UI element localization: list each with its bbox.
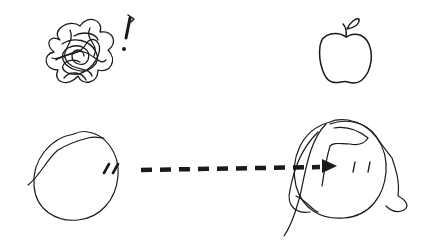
right-person-eyes [353, 162, 370, 172]
tangled-scribble-icon [46, 19, 113, 82]
left-person-head [28, 132, 118, 221]
apple-icon [320, 19, 372, 83]
right-person-head [284, 120, 407, 236]
left-person-eyes [104, 164, 118, 173]
sketch-canvas [0, 0, 447, 244]
exclamation-icon [122, 15, 134, 51]
